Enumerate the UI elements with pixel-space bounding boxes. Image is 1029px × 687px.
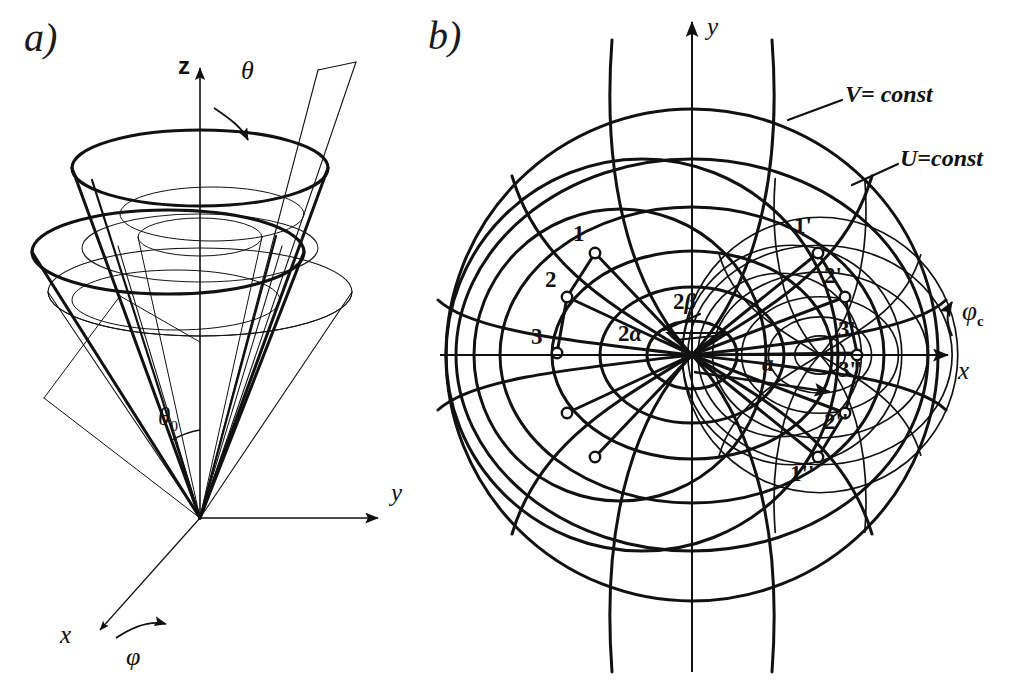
panel-a-y-axis-label: y: [391, 480, 402, 505]
node-label-3-prime: 3': [838, 318, 856, 341]
phi-label: φ: [126, 644, 140, 670]
phic-symbol: φ: [962, 296, 977, 326]
theta0-label: θ0: [158, 404, 178, 434]
two-alpha-number: 2: [618, 321, 630, 346]
panel-b-y-axis-label: y: [707, 14, 718, 39]
panel-a-z-axis-label: z: [178, 54, 190, 78]
u-const-label: U=const: [900, 146, 983, 170]
panel-a-x-axis-label: x: [60, 622, 71, 647]
node-label-2-prime: 2': [824, 264, 842, 287]
theta0-subscript: 0: [170, 417, 178, 434]
theta-label: θ: [241, 58, 254, 84]
figure-root: a) z y x θ φ θ0 b) y x φc V= const U=con…: [0, 0, 1029, 687]
panel-a-x-axis: [100, 518, 200, 630]
panel-a-artwork: [32, 62, 378, 638]
panel-b-letter: b): [428, 16, 461, 56]
distance-a-label: a: [762, 352, 774, 375]
v-const-label: V= const: [845, 82, 933, 106]
node-label-3: 3: [531, 325, 543, 348]
node-label-3-double-prime: 3'': [838, 358, 862, 381]
two-alpha-label: 2α: [618, 322, 642, 345]
phic-subscript: c: [977, 313, 984, 329]
theta-rotation-arrow: [214, 108, 248, 140]
two-beta-label: 2β: [673, 290, 696, 313]
node-label-1: 1: [573, 222, 585, 245]
node-label-2-double-prime: 2'': [824, 410, 848, 433]
phic-label: φc: [962, 298, 984, 329]
panel-a-letter: a): [24, 18, 57, 58]
node-label-2: 2: [545, 268, 557, 291]
two-alpha-symbol: α: [630, 321, 643, 346]
two-beta-number: 2: [673, 289, 685, 314]
phi-rotation-arrow: [116, 623, 166, 638]
node-label-1-double-prime: 1'': [790, 462, 814, 485]
panel-b-x-axis-label: x: [958, 358, 969, 383]
theta0-symbol: θ: [158, 403, 170, 430]
panel-b-artwork: [438, 22, 958, 672]
two-beta-symbol: β: [685, 289, 697, 314]
node-label-1-prime: 1': [794, 214, 812, 237]
